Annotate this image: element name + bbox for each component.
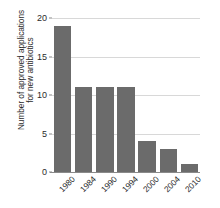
x-tick-label: 1994 <box>120 174 140 194</box>
y-tick-label: 5 <box>42 129 47 139</box>
y-tick-label: 0 <box>42 167 47 177</box>
y-tick-label: 15 <box>37 52 47 62</box>
y-tick-label: 20 <box>37 13 47 23</box>
x-tick-label: 1980 <box>56 174 76 194</box>
bar <box>117 87 135 172</box>
x-tick-label: 1990 <box>99 174 119 194</box>
bar <box>181 164 199 172</box>
plot-area: 05101520 <box>52 18 200 172</box>
x-tick-label: 2010 <box>183 174 203 194</box>
bar <box>160 149 178 172</box>
x-tick-label: 2004 <box>162 174 182 194</box>
bar <box>75 87 93 172</box>
y-tick-label: 10 <box>37 90 47 100</box>
x-tick-label: 2000 <box>141 174 161 194</box>
y-axis-title-line-2: for new antibiotics <box>26 37 35 102</box>
x-tick-label: 1984 <box>78 174 98 194</box>
x-axis-tick-labels: 1980198419901994200020042010 <box>52 174 200 208</box>
y-axis-title: Number of approved applications for new … <box>12 0 40 150</box>
bar-chart-figure: Number of approved applications for new … <box>0 0 220 208</box>
bars-group <box>52 18 200 172</box>
bar <box>54 26 72 172</box>
bar <box>138 141 156 172</box>
bar <box>96 87 114 172</box>
